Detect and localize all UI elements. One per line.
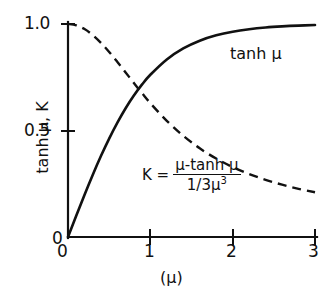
y-tick-label-1.0: 1.0: [24, 13, 50, 33]
formula-lhs: K =: [142, 166, 169, 184]
chart-figure: 1.0 0.5 0 0 1 2 3 (μ) tanh μ, K tanh μ K…: [0, 0, 334, 297]
x-tick-label-3: 3: [308, 241, 319, 261]
x-tick-label-2: 2: [226, 241, 237, 261]
x-tick-label-0: 0: [57, 241, 68, 261]
k-formula-annotation: K = μ-tanh μ 1/3μ3: [142, 157, 241, 193]
tanh-curve-label: tanh μ: [230, 44, 282, 63]
formula-numerator: μ-tanh μ: [173, 157, 240, 175]
y-axis-title: tanh μ, K: [33, 78, 52, 198]
formula-fraction: μ-tanh μ 1/3μ3: [173, 157, 240, 193]
x-axis-title: (μ): [160, 268, 183, 287]
x-tick-label-1: 1: [144, 241, 155, 261]
formula-denominator-exponent: 3: [221, 175, 227, 186]
formula-denominator: 1/3μ3: [185, 175, 229, 193]
formula-denominator-base: 1/3μ: [187, 176, 221, 194]
